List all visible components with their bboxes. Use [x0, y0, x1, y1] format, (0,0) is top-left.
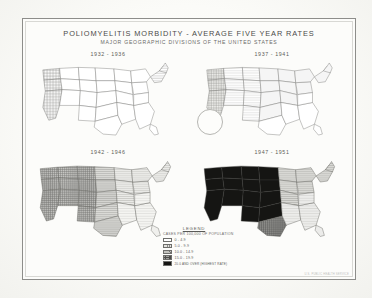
legend-swatch [163, 238, 172, 243]
credit-line: U.S. PUBLIC HEALTH SERVICE [304, 273, 349, 276]
figure-sheet: POLIOMYELITIS MORBIDITY - AVERAGE FIVE Y… [0, 0, 372, 298]
map-panel-1932-1936: 1932 - 1936 [31, 51, 185, 139]
panel-label-1932-1936: 1932 - 1936 [31, 51, 185, 57]
figure-frame: POLIOMYELITIS MORBIDITY - AVERAGE FIVE Y… [22, 18, 356, 280]
legend-title: LEGEND [163, 226, 225, 231]
legend-swatch [163, 244, 172, 249]
legend-row: 20.0 AND OVER (HIGHEST RATE) [163, 261, 225, 266]
legend-label: 5.0 - 9.9 [175, 244, 190, 248]
legend: LEGEND CASES PER 100,000 OF POPULATION 0… [163, 226, 225, 267]
legend-swatch [163, 250, 172, 255]
figure-subtitle: MAJOR GEOGRAPHIC DIVISIONS OF THE UNITED… [23, 39, 355, 45]
legend-row: 5.0 - 9.9 [163, 243, 225, 248]
locator-circle-inset [197, 109, 223, 135]
legend-row: 0 - 4.9 [163, 238, 225, 243]
legend-label: 0 - 4.9 [175, 238, 186, 242]
map-canvas-1932-1936 [31, 60, 185, 139]
legend-label: 10.0 - 14.9 [175, 250, 194, 254]
panel-label-1947-1951: 1947 - 1951 [195, 149, 349, 155]
map-canvas-1942-1946 [31, 158, 185, 241]
panel-label-1942-1946: 1942 - 1946 [31, 149, 185, 155]
map-panel-1942-1946: 1942 - 1946 [31, 149, 185, 241]
figure-title: POLIOMYELITIS MORBIDITY - AVERAGE FIVE Y… [23, 29, 355, 38]
panel-label-1937-1941: 1937 - 1941 [195, 51, 349, 57]
legend-swatch [163, 255, 172, 260]
legend-row: 15.0 - 19.9 [163, 255, 225, 260]
legend-swatch [163, 261, 172, 266]
legend-label: 20.0 AND OVER (HIGHEST RATE) [175, 262, 228, 266]
legend-row: 10.0 - 14.9 [163, 249, 225, 254]
legend-rows: 0 - 4.9 5.0 - 9.9 10.0 - 14.9 15.0 - 19.… [163, 238, 225, 267]
legend-label: 15.0 - 19.9 [175, 256, 194, 260]
legend-subtitle: CASES PER 100,000 OF POPULATION [163, 232, 225, 236]
